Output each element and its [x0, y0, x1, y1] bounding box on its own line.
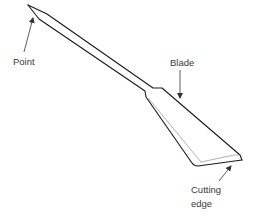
bevel-line [149, 99, 201, 162]
blade-label: Blade [170, 56, 194, 69]
point-arrow [24, 18, 33, 52]
tang-upper-edge [28, 5, 242, 160]
point-label: Point [13, 55, 35, 68]
cutting-edge-label-line1: Cutting [191, 183, 221, 196]
tang-lower-edge [28, 5, 242, 166]
chisel-outline [28, 5, 242, 166]
cutting-edge-label-line2: edge [191, 197, 212, 210]
cutting-edge-arrow [219, 166, 231, 181]
